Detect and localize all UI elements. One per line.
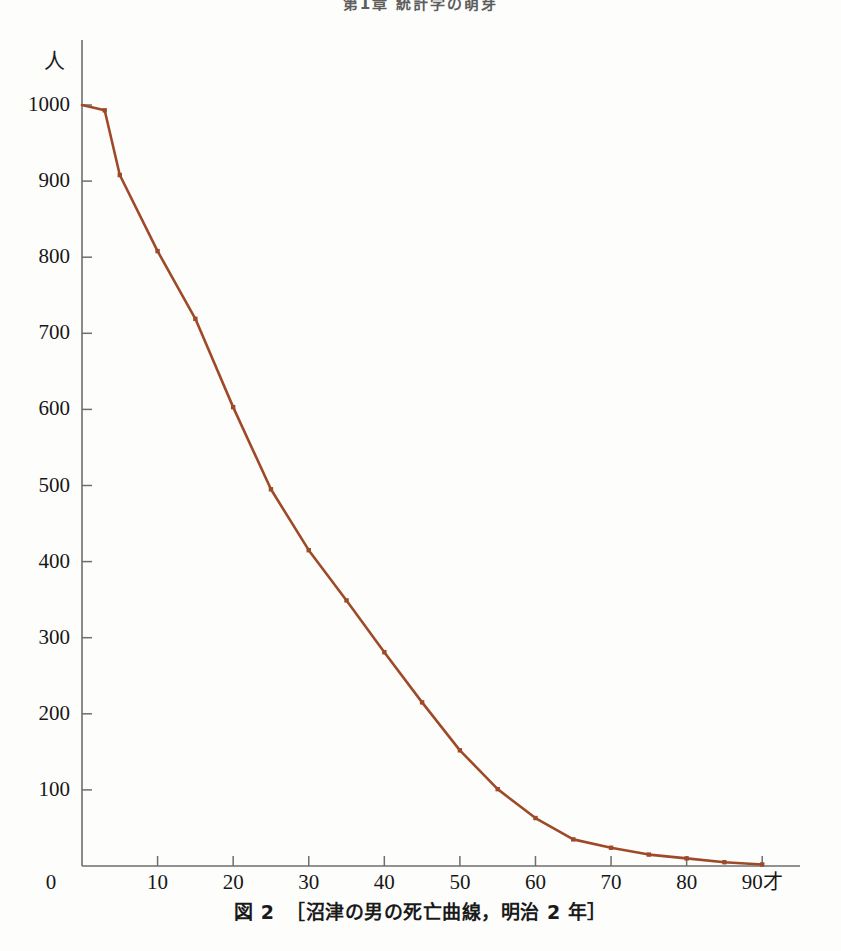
y-axis-tick-label: 300: [8, 627, 70, 648]
figure-caption-number: 図 2: [234, 901, 274, 923]
figure-caption: 図 2［沼津の男の死亡曲線，明治 2 年］: [0, 897, 841, 924]
data-point-marker: [231, 405, 235, 409]
data-point-marker: [307, 548, 311, 552]
y-axis-tick-label: 900: [8, 170, 70, 191]
x-axis-tick-label: 10: [118, 872, 198, 893]
y-axis-tick-label: 100: [8, 779, 70, 800]
data-point-marker: [571, 837, 575, 841]
data-point-marker: [533, 816, 537, 820]
data-point-marker: [193, 317, 197, 321]
figure-caption-text: ［沼津の男の死亡曲線，明治 2 年］: [286, 901, 606, 923]
data-point-marker: [722, 860, 726, 864]
data-point-markers: [102, 108, 764, 867]
x-axis-tick-label: 90才: [722, 872, 802, 893]
data-point-marker: [647, 852, 651, 856]
data-point-marker: [269, 487, 273, 491]
data-point-marker: [609, 846, 613, 850]
data-point-marker: [495, 787, 499, 791]
y-axis-tick-label: 600: [8, 398, 70, 419]
data-point-marker: [344, 598, 348, 602]
y-axis-tick-label: 500: [8, 475, 70, 496]
data-point-marker: [420, 700, 424, 704]
y-axis-tick-label: 400: [8, 551, 70, 572]
data-point-marker: [382, 650, 386, 654]
y-axis-tick-label: 0: [20, 872, 82, 893]
data-point-marker: [458, 748, 462, 752]
y-axis-tick-label: 700: [8, 322, 70, 343]
y-axis-tick-label: 200: [8, 703, 70, 724]
x-axis-tick-label: 20: [193, 872, 273, 893]
x-axis-tick-label: 70: [571, 872, 651, 893]
y-axis-ticks: [82, 105, 92, 790]
x-axis-tick-label: 60: [495, 872, 575, 893]
y-axis-tick-label: 800: [8, 246, 70, 267]
data-point-marker: [684, 856, 688, 860]
figure-mortality-curve: 人 01002003004005006007008009001000 10203…: [0, 0, 841, 951]
data-point-marker: [155, 249, 159, 253]
x-axis-tick-label: 40: [344, 872, 424, 893]
mortality-curve-line: [82, 105, 762, 864]
plot-area: [0, 0, 841, 951]
y-axis-tick-label: 1000: [8, 94, 70, 115]
x-axis-unit-suffix: 才: [763, 870, 783, 894]
data-point-marker: [118, 173, 122, 177]
x-axis-tick-label: 50: [420, 872, 500, 893]
axes: [82, 40, 800, 866]
x-axis-tick-label: 80: [647, 872, 727, 893]
x-axis-tick-label: 30: [269, 872, 349, 893]
data-point-marker: [102, 108, 106, 112]
data-point-marker: [760, 862, 764, 866]
